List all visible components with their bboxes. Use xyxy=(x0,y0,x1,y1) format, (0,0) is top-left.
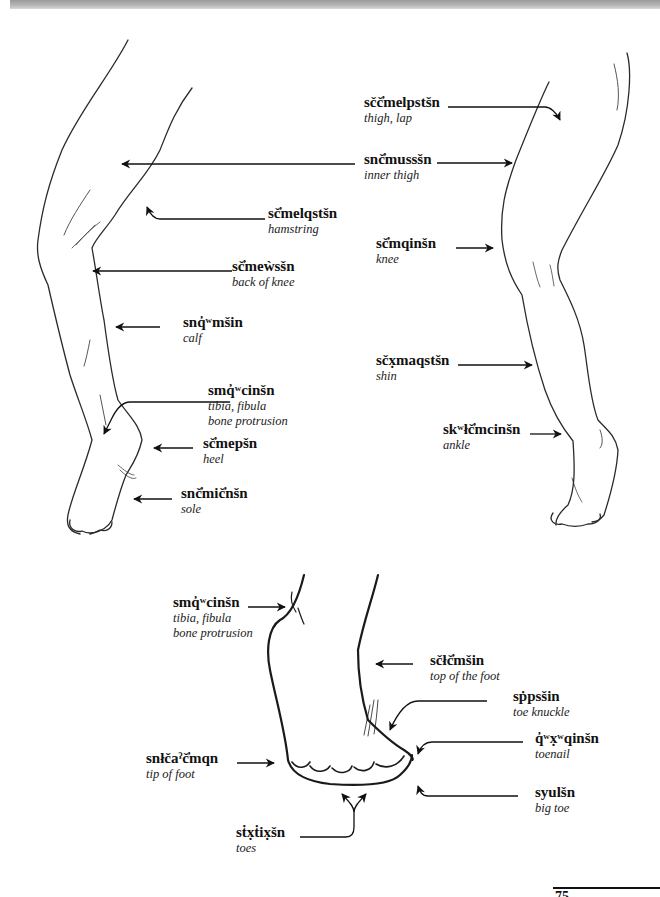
label-calf: snq̓ʷmšin calf xyxy=(183,314,243,346)
leg-front-arrows xyxy=(437,107,561,434)
foot-drawing xyxy=(268,575,413,785)
term-heel: sč̓mepšn xyxy=(203,435,257,452)
gloss-toe-knuckle: toe knuckle xyxy=(513,705,570,719)
gloss-toes: toes xyxy=(236,841,285,855)
foot-arrows xyxy=(237,607,523,837)
label-toe-knuckle: sṗpsšin toe knuckle xyxy=(513,688,570,720)
gloss-heel: heel xyxy=(203,452,257,466)
gloss-toenail: toenail xyxy=(535,747,599,761)
term-inner-thigh: snč̓mussšn xyxy=(364,151,432,168)
gloss-hamstring: hamstring xyxy=(268,222,337,236)
leg-back-drawing xyxy=(37,40,192,534)
label-sole: snč̓mič̓nšn sole xyxy=(181,485,248,517)
term-shin: sčx̣maqstšn xyxy=(376,352,449,369)
term-toes: sṫx̣ṫix̣šn xyxy=(236,824,285,841)
term-thigh: sčč̓melpstšn xyxy=(364,94,440,111)
label-thigh: sčč̓melpstšn thigh, lap xyxy=(364,94,440,126)
label-back-of-knee: sč̓meẁsšn back of knee xyxy=(232,258,295,290)
term-calf: snq̓ʷmšin xyxy=(183,314,243,331)
gloss-calf: calf xyxy=(183,331,243,345)
term-sole: snč̓mič̓nšn xyxy=(181,485,248,502)
leg-front-drawing xyxy=(502,53,630,526)
gloss-shin: shin xyxy=(376,369,449,383)
term-top-of-foot: sčłč̓mšin xyxy=(430,652,500,669)
label-toenail: q̓ʷx̣ʷqinšn toenail xyxy=(535,730,599,762)
label-inner-thigh: snč̓mussšn inner thigh xyxy=(364,151,432,183)
term-toenail: q̓ʷx̣ʷqinšn xyxy=(535,730,599,747)
gloss-tip-of-foot: tip of foot xyxy=(146,767,218,781)
gloss-ankle: ankle xyxy=(443,438,520,452)
label-tibia-fibula: smq̓ʷcinšn tibia, fibula bone protrusion xyxy=(208,382,288,428)
gloss-big-toe: big toe xyxy=(535,801,575,815)
term-big-toe: syulšn xyxy=(535,784,575,801)
footer-rule xyxy=(553,887,660,889)
gloss-knee: knee xyxy=(376,252,436,266)
label-ankle: skʷłč̓mcinšn ankle xyxy=(443,421,520,453)
gloss-inner-thigh: inner thigh xyxy=(364,168,432,182)
gloss-thigh: thigh, lap xyxy=(364,111,440,125)
label-big-toe: syulšn big toe xyxy=(535,784,575,816)
term-foot-tibia-fibula: smq̓ʷcinšn xyxy=(173,594,253,611)
label-toes: sṫx̣ṫix̣šn toes xyxy=(236,824,285,856)
term-tip-of-foot: snłčaˀč̓mqn xyxy=(146,750,218,767)
gloss-sole: sole xyxy=(181,502,248,516)
leg-illustrations xyxy=(0,0,660,897)
label-foot-tibia-fibula: smq̓ʷcinšn tibia, fibula bone protrusion xyxy=(173,594,253,640)
label-heel: sč̓mepšn heel xyxy=(203,435,257,467)
page-number: 75 xyxy=(555,890,660,897)
gloss-bone-protrusion: bone protrusion xyxy=(208,414,288,428)
term-toe-knuckle: sṗpsšin xyxy=(513,688,570,705)
label-tip-of-foot: snłčaˀč̓mqn tip of foot xyxy=(146,750,218,782)
term-back-of-knee: sč̓meẁsšn xyxy=(232,258,295,275)
gloss-back-of-knee: back of knee xyxy=(232,275,295,289)
gloss-foot-bone-protrusion: bone protrusion xyxy=(173,626,253,640)
gloss-tibia-fibula: tibia, fibula xyxy=(208,399,288,413)
label-knee: sč̓mqinšn knee xyxy=(376,235,436,267)
gloss-top-of-foot: top of the foot xyxy=(430,669,500,683)
label-top-of-foot: sčłč̓mšin top of the foot xyxy=(430,652,500,684)
term-knee: sč̓mqinšn xyxy=(376,235,436,252)
term-tibia-fibula: smq̓ʷcinšn xyxy=(208,382,288,399)
term-hamstring: sč̓melqstšn xyxy=(268,205,337,222)
label-hamstring: sč̓melqstšn hamstring xyxy=(268,205,337,237)
label-shin: sčx̣maqstšn shin xyxy=(376,352,449,384)
gloss-foot-tibia-fibula: tibia, fibula xyxy=(173,611,253,625)
term-ankle: skʷłč̓mcinšn xyxy=(443,421,520,438)
